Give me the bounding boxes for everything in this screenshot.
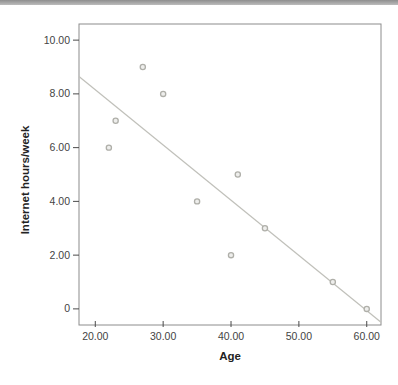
y-tick-label: 10.00: [44, 34, 70, 46]
data-point: [161, 91, 166, 96]
regression-line: [79, 77, 381, 323]
x-tick-label: 60.00: [354, 330, 380, 342]
x-tick-label: 30.00: [150, 330, 176, 342]
x-tick-label: 40.00: [218, 330, 244, 342]
plot-frame: [79, 24, 381, 325]
data-point: [140, 64, 145, 69]
x-tick-label: 20.00: [82, 330, 108, 342]
y-tick-label: 0: [64, 302, 70, 314]
y-axis-title: Internet hours/week: [19, 126, 31, 235]
data-point: [194, 199, 199, 204]
data-point: [364, 306, 369, 311]
chart-canvas: 20.0030.0040.0050.0060.0002.004.006.008.…: [0, 0, 398, 385]
data-point: [262, 226, 267, 231]
scatter-chart: 20.0030.0040.0050.0060.0002.004.006.008.…: [0, 0, 398, 385]
data-point: [228, 253, 233, 258]
y-tick-label: 4.00: [50, 195, 71, 207]
data-point: [235, 172, 240, 177]
x-axis-title: Age: [219, 350, 241, 362]
data-point: [330, 279, 335, 284]
x-tick-label: 50.00: [286, 330, 312, 342]
y-tick-label: 8.00: [50, 87, 71, 99]
y-tick-label: 2.00: [50, 249, 71, 261]
data-point: [106, 145, 111, 150]
data-point: [113, 118, 118, 123]
y-tick-label: 6.00: [50, 141, 71, 153]
